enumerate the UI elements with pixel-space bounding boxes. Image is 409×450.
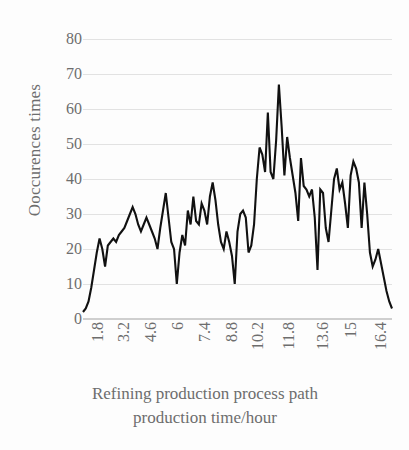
x-tick-label-6: 6 [170, 322, 186, 378]
y-tick-label-80: 80 [52, 31, 82, 47]
x-tick-label-4-6: 4.6 [143, 322, 159, 378]
x-axis-title: Refining production process path product… [30, 382, 380, 430]
y-tick-label-40: 40 [52, 171, 82, 187]
y-tick-label-30: 30 [52, 206, 82, 222]
y-tick-label-0: 0 [52, 311, 82, 327]
y-axis-title: Ooccurences times [22, 0, 48, 300]
y-tick-label-50: 50 [52, 136, 82, 152]
x-tick-label-8-8: 8.8 [224, 322, 240, 378]
y-tick-label-60: 60 [52, 101, 82, 117]
gridlines [83, 39, 392, 319]
x-tick-label-7-4: 7.4 [197, 322, 213, 378]
x-tick-label-1-8: 1.8 [90, 322, 106, 378]
x-axis-title-line-2: production time/hour [30, 406, 380, 430]
x-tick-label-10-2: 10.2 [250, 322, 266, 378]
y-tick-label-10: 10 [52, 276, 82, 292]
plot-area [83, 39, 392, 319]
x-axis-title-line-1: Refining production process path [30, 382, 380, 406]
x-tick-label-16-4: 16.4 [373, 322, 389, 378]
chart-figure: Ooccurences times 01020304050607080 1.83… [0, 0, 409, 450]
y-tick-label-70: 70 [52, 66, 82, 82]
x-axis-tick-labels: 1.83.24.667.48.810.211.813.61516.4 [83, 322, 392, 380]
plot-svg [83, 39, 392, 319]
x-tick-label-13-6: 13.6 [315, 322, 331, 378]
x-tick-label-3-2: 3.2 [116, 322, 132, 378]
y-tick-label-20: 20 [52, 241, 82, 257]
x-tick-label-11-8: 11.8 [281, 322, 297, 378]
x-tick-label-15: 15 [343, 322, 359, 378]
line-series-occurrences [83, 85, 392, 313]
y-axis-tick-labels: 01020304050607080 [52, 29, 82, 329]
